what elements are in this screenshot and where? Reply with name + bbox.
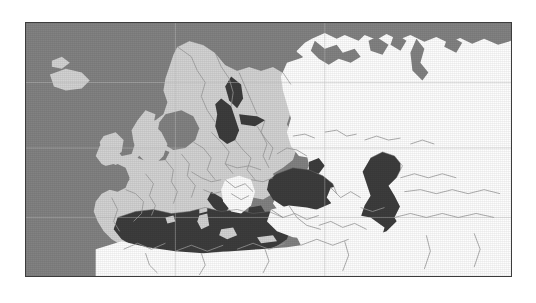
europe-map-svg xyxy=(26,23,511,276)
region-central-asia xyxy=(394,144,511,233)
map-figure xyxy=(25,22,512,277)
